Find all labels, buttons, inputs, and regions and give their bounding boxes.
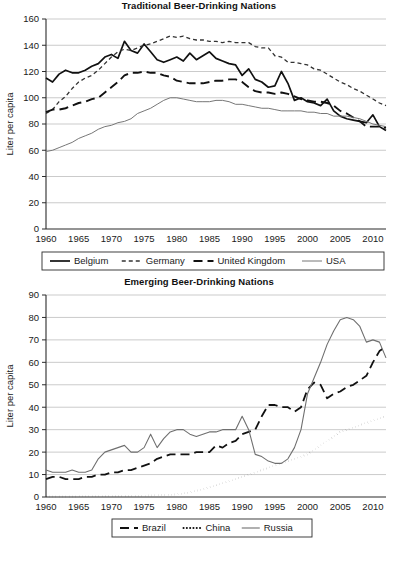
- y-tick-label: 50: [28, 379, 39, 390]
- y-tick-label: 60: [28, 145, 39, 156]
- x-tick-label: 2000: [297, 233, 318, 244]
- x-tick-label: 2005: [330, 501, 351, 512]
- y-tick-label: 70: [28, 334, 39, 345]
- chart-traditional: Traditional Beer-Drinking Nations 020406…: [0, 0, 398, 276]
- x-tick-label: 1975: [134, 233, 155, 244]
- y-tick-label: 10: [28, 469, 39, 480]
- x-tick-label: 1965: [68, 233, 89, 244]
- y-tick-label: 40: [28, 402, 39, 413]
- series-line-united-kingdom: [46, 72, 386, 128]
- chart-svg-traditional: 0204060801001201401601960196519701975198…: [0, 11, 398, 276]
- x-tick-label: 2010: [362, 233, 383, 244]
- legend-label-china: China: [206, 522, 232, 533]
- x-tick-label: 1995: [264, 233, 285, 244]
- legend-label-usa: USA: [326, 255, 346, 266]
- x-tick-label: 1995: [264, 501, 285, 512]
- chart-emerging: Emerging Beer-Drinking Nations 010203040…: [0, 276, 398, 539]
- x-tick-label: 1990: [232, 233, 253, 244]
- x-tick-label: 2005: [330, 233, 351, 244]
- x-tick-label: 1970: [101, 501, 122, 512]
- x-tick-label: 2010: [362, 501, 383, 512]
- chart-svg-emerging: 0102030405060708090196019651970197519801…: [0, 287, 398, 539]
- y-tick-label: 120: [23, 66, 39, 77]
- x-tick-label: 1985: [199, 233, 220, 244]
- series-line-brazil: [46, 347, 386, 479]
- x-tick-label: 1985: [199, 501, 220, 512]
- x-tick-label: 1960: [35, 233, 56, 244]
- y-tick-label: 140: [23, 40, 39, 51]
- series-line-china: [46, 416, 386, 496]
- legend-label-belgium: Belgium: [74, 255, 108, 266]
- legend-label-brazil: Brazil: [142, 522, 166, 533]
- y-tick-label: 20: [28, 447, 39, 458]
- legend-label-united-kingdom: United Kingdom: [218, 255, 286, 266]
- y-tick-label: 40: [28, 171, 39, 182]
- series-line-belgium: [46, 41, 386, 130]
- legend-label-russia: Russia: [264, 522, 294, 533]
- y-tick-label: 80: [28, 118, 39, 129]
- x-tick-label: 1975: [134, 501, 155, 512]
- y-tick-label: 60: [28, 357, 39, 368]
- y-tick-label: 80: [28, 312, 39, 323]
- y-tick-label: 90: [28, 289, 39, 300]
- chart-title-emerging: Emerging Beer-Drinking Nations: [0, 276, 398, 287]
- series-line-russia: [46, 317, 386, 472]
- legend-label-germany: Germany: [146, 255, 185, 266]
- x-tick-label: 1965: [68, 501, 89, 512]
- x-tick-label: 1960: [35, 501, 56, 512]
- y-axis-label: Liter per capita: [4, 364, 15, 428]
- x-tick-label: 1980: [166, 233, 187, 244]
- series-line-germany: [46, 36, 386, 113]
- x-tick-label: 1990: [232, 501, 253, 512]
- chart-title-traditional: Traditional Beer-Drinking Nations: [0, 0, 398, 11]
- y-tick-label: 30: [28, 424, 39, 435]
- x-tick-label: 1970: [101, 233, 122, 244]
- y-tick-label: 160: [23, 13, 39, 24]
- y-tick-label: 100: [23, 92, 39, 103]
- figure-container: Traditional Beer-Drinking Nations 020406…: [0, 0, 398, 568]
- y-tick-label: 20: [28, 197, 39, 208]
- x-tick-label: 2000: [297, 501, 318, 512]
- y-axis-label: Liter per capita: [4, 92, 15, 156]
- x-tick-label: 1980: [166, 501, 187, 512]
